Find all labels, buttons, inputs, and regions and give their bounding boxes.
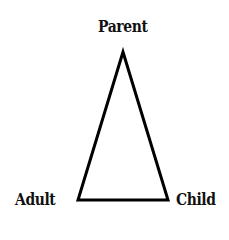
- triangle-shape: [78, 52, 168, 200]
- adult-label: Adult: [15, 191, 55, 208]
- child-label: Child: [176, 191, 216, 208]
